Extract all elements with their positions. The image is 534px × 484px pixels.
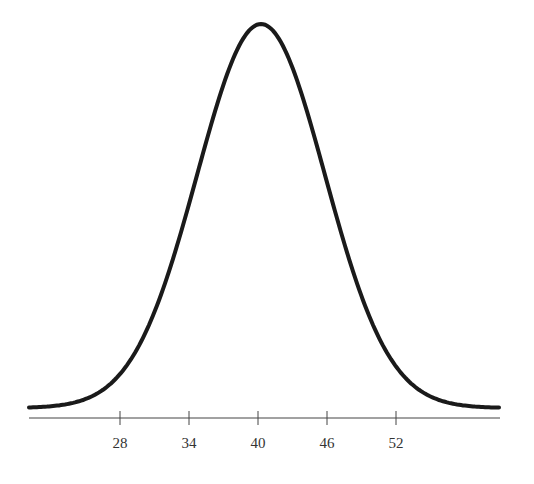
normal-curve bbox=[29, 24, 499, 408]
normal-distribution-chart: 2834404652 bbox=[0, 0, 534, 484]
x-tick-label: 34 bbox=[182, 435, 198, 451]
x-tick-label: 40 bbox=[251, 435, 266, 451]
x-tick-label: 46 bbox=[320, 435, 336, 451]
x-tick-label: 28 bbox=[113, 435, 128, 451]
x-axis-ticks: 2834404652 bbox=[113, 411, 404, 451]
x-tick-label: 52 bbox=[389, 435, 404, 451]
